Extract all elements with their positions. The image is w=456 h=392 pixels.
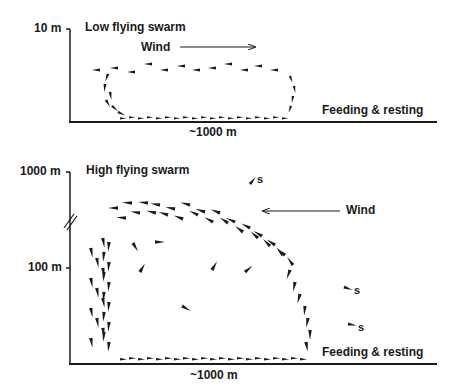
high-swarm-locusts <box>89 176 357 361</box>
high-wind-label: Wind <box>346 203 375 217</box>
low-x-label: ~1000 m <box>189 125 237 139</box>
diagram-canvas <box>0 0 456 392</box>
straggler-label-1: s <box>257 173 263 185</box>
high-ground-label: Feeding & resting <box>322 345 423 359</box>
high-panel-title: High flying swarm <box>86 163 189 177</box>
high-y-mid-label: 100 m <box>28 260 62 274</box>
high-y-top-label: 1000 m <box>20 164 61 178</box>
high-x-label: ~1000 m <box>190 368 238 382</box>
straggler-label-2: s <box>354 284 360 296</box>
low-ground-label: Feeding & resting <box>322 103 423 117</box>
high-panel-axes <box>64 172 437 365</box>
straggler-label-3: s <box>358 321 364 333</box>
low-wind-label: Wind <box>141 40 170 54</box>
low-panel-title: Low flying swarm <box>85 20 186 34</box>
low-swarm-locusts <box>92 63 297 120</box>
low-y-top-label: 10 m <box>34 21 61 35</box>
